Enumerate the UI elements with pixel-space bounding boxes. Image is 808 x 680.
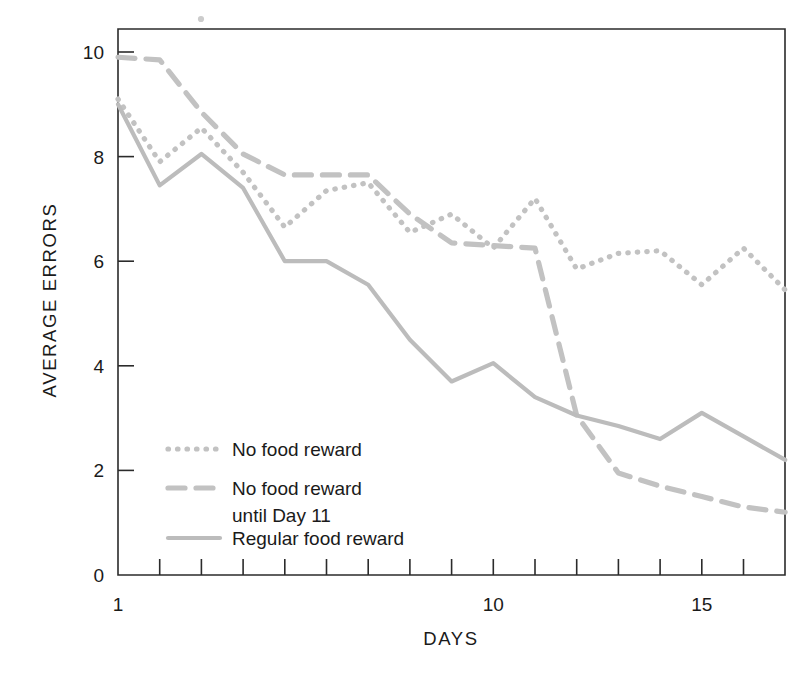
chart-legend: No food rewardNo food rewarduntil Day 11… (168, 439, 404, 549)
y-tick-label: 2 (93, 460, 104, 481)
x-axis-title: DAYS (423, 628, 478, 649)
series-line-dashed (118, 57, 785, 512)
legend-label-1-line2: until Day 11 (232, 505, 331, 526)
legend-label-1: No food reward (232, 478, 362, 499)
y-axis-title: AVERAGE ERRORS (39, 203, 60, 398)
data-series-group (118, 57, 785, 512)
y-tick-label: 10 (83, 42, 104, 63)
x-tick-label: 15 (691, 594, 712, 615)
x-tick-label: 10 (483, 594, 504, 615)
legend-label-2: Regular food reward (232, 528, 404, 549)
chart-figure: 0246810 11015 AVERAGE ERRORS DAYS No foo… (0, 0, 808, 680)
y-tick-label: 4 (93, 356, 104, 377)
x-tick-label: 1 (113, 594, 124, 615)
y-tick-label: 6 (93, 251, 104, 272)
legend-label-0: No food reward (232, 439, 362, 460)
series-line-solid (118, 104, 785, 460)
x-axis-ticks: 11015 (113, 559, 744, 615)
chart-canvas: 0246810 11015 AVERAGE ERRORS DAYS No foo… (0, 0, 808, 680)
series-line-dotted (118, 99, 785, 290)
y-tick-label: 0 (93, 565, 104, 586)
decorative-speck (198, 16, 204, 22)
y-tick-label: 8 (93, 147, 104, 168)
